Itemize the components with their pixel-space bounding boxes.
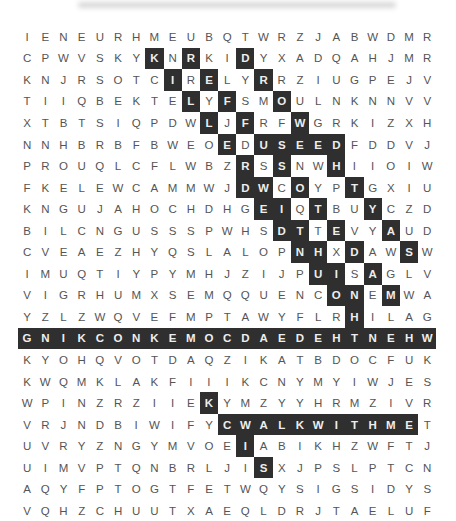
grid-cell[interactable]: S <box>254 155 272 177</box>
grid-cell[interactable]: W <box>364 371 382 393</box>
grid-cell[interactable]: A <box>236 306 254 328</box>
grid-cell[interactable]: K <box>345 91 363 113</box>
grid-cell[interactable]: R <box>327 112 345 134</box>
grid-cell[interactable]: C <box>91 500 109 521</box>
grid-cell[interactable]: M <box>182 263 200 285</box>
grid-cell[interactable]: P <box>200 220 218 242</box>
grid-cell[interactable]: F <box>164 371 182 393</box>
grid-cell[interactable]: D <box>418 220 436 242</box>
grid-cell[interactable]: C <box>164 198 182 220</box>
grid-cell-highlighted[interactable]: O <box>200 328 218 350</box>
grid-cell[interactable]: Z <box>400 198 418 220</box>
grid-cell[interactable]: M <box>236 392 254 414</box>
grid-cell[interactable]: I <box>36 91 54 113</box>
grid-cell[interactable]: S <box>418 478 436 500</box>
word-search-grid[interactable]: IENEURHMEUBQTWRZJABWDMRCPWVSKYKNRKIDYXAD… <box>18 26 436 521</box>
grid-cell[interactable]: A <box>218 241 236 263</box>
grid-cell[interactable]: E <box>218 500 236 521</box>
grid-cell[interactable]: P <box>91 478 109 500</box>
grid-cell[interactable]: N <box>273 371 291 393</box>
grid-cell[interactable]: Y <box>200 91 218 113</box>
grid-cell[interactable]: I <box>182 371 200 393</box>
grid-cell[interactable]: O <box>200 134 218 156</box>
grid-cell[interactable]: Y <box>164 263 182 285</box>
grid-cell[interactable]: Y <box>364 220 382 242</box>
grid-cell[interactable]: B <box>54 112 72 134</box>
grid-cell[interactable]: D <box>327 349 345 371</box>
grid-cell-highlighted[interactable]: K <box>291 414 309 436</box>
grid-cell[interactable]: Q <box>218 285 236 307</box>
grid-cell[interactable]: A <box>345 500 363 521</box>
grid-cell-highlighted[interactable]: M <box>382 285 400 307</box>
grid-cell-highlighted[interactable]: H <box>364 414 382 436</box>
grid-cell[interactable]: R <box>36 414 54 436</box>
grid-cell[interactable]: J <box>382 371 400 393</box>
grid-cell-highlighted[interactable]: I <box>54 328 72 350</box>
grid-cell[interactable]: Y <box>309 177 327 199</box>
grid-cell[interactable]: V <box>109 349 127 371</box>
grid-cell[interactable]: I <box>309 69 327 91</box>
grid-cell[interactable]: F <box>73 478 91 500</box>
grid-cell[interactable]: G <box>309 112 327 134</box>
grid-cell-highlighted[interactable]: I <box>236 435 254 457</box>
grid-cell[interactable]: E <box>91 241 109 263</box>
grid-cell-highlighted[interactable]: T <box>345 328 363 350</box>
grid-cell[interactable]: M <box>200 285 218 307</box>
grid-cell[interactable]: V <box>418 91 436 113</box>
grid-cell[interactable]: L <box>236 241 254 263</box>
grid-cell[interactable]: T <box>36 112 54 134</box>
grid-cell[interactable]: T <box>145 349 163 371</box>
grid-cell[interactable]: C <box>73 220 91 242</box>
grid-cell-highlighted[interactable]: T <box>291 220 309 242</box>
grid-cell[interactable]: E <box>273 285 291 307</box>
grid-cell[interactable]: N <box>54 26 72 48</box>
grid-cell[interactable]: L <box>54 220 72 242</box>
grid-cell[interactable]: Z <box>382 112 400 134</box>
grid-cell[interactable]: L <box>400 263 418 285</box>
grid-cell-highlighted[interactable]: E <box>400 414 418 436</box>
grid-cell[interactable]: M <box>400 26 418 48</box>
grid-cell-highlighted[interactable]: W <box>418 328 436 350</box>
grid-cell[interactable]: A <box>127 371 145 393</box>
grid-cell[interactable]: I <box>54 392 72 414</box>
grid-cell[interactable]: V <box>400 91 418 113</box>
grid-cell[interactable]: Y <box>218 392 236 414</box>
grid-cell-highlighted[interactable]: C <box>91 328 109 350</box>
grid-cell-highlighted[interactable]: D <box>327 134 345 156</box>
grid-cell[interactable]: Y <box>291 371 309 393</box>
grid-cell[interactable]: P <box>145 263 163 285</box>
grid-cell[interactable]: L <box>109 155 127 177</box>
grid-cell[interactable]: D <box>382 26 400 48</box>
grid-cell[interactable]: W <box>182 155 200 177</box>
grid-cell[interactable]: Q <box>36 500 54 521</box>
grid-cell[interactable]: C <box>364 349 382 371</box>
grid-cell[interactable]: D <box>273 500 291 521</box>
grid-cell[interactable]: I <box>145 392 163 414</box>
grid-cell[interactable]: J <box>218 177 236 199</box>
grid-cell[interactable]: L <box>218 69 236 91</box>
grid-cell[interactable]: R <box>327 392 345 414</box>
grid-cell[interactable]: K <box>200 48 218 70</box>
grid-cell[interactable]: H <box>236 220 254 242</box>
grid-cell[interactable]: B <box>145 134 163 156</box>
grid-cell[interactable]: D <box>382 478 400 500</box>
grid-cell[interactable]: I <box>36 285 54 307</box>
grid-cell[interactable]: T <box>109 457 127 479</box>
grid-cell[interactable]: Z <box>127 392 145 414</box>
grid-cell[interactable]: I <box>236 349 254 371</box>
grid-cell[interactable]: K <box>18 69 36 91</box>
grid-cell[interactable]: W <box>309 155 327 177</box>
grid-cell[interactable]: R <box>273 26 291 48</box>
grid-cell[interactable]: E <box>200 478 218 500</box>
grid-cell-highlighted[interactable]: S <box>254 457 272 479</box>
grid-cell[interactable]: M <box>309 371 327 393</box>
grid-cell[interactable]: O <box>382 155 400 177</box>
grid-cell[interactable]: C <box>145 69 163 91</box>
grid-cell[interactable]: F <box>382 349 400 371</box>
grid-cell[interactable]: R <box>418 26 436 48</box>
grid-cell[interactable]: R <box>91 134 109 156</box>
grid-cell-highlighted[interactable]: I <box>327 414 345 436</box>
grid-cell[interactable]: E <box>218 435 236 457</box>
grid-cell[interactable]: U <box>145 500 163 521</box>
grid-cell[interactable]: M <box>164 435 182 457</box>
